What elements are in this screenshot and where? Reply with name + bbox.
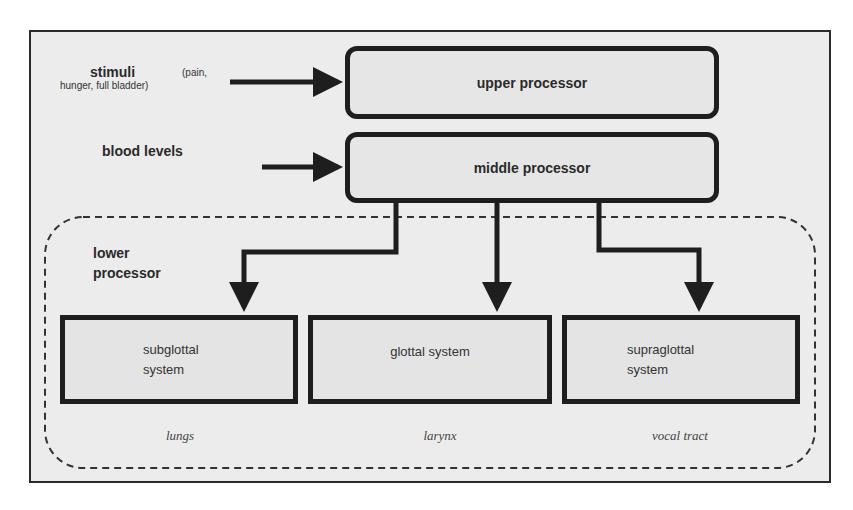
organ-vocal-tract: vocal tract (620, 428, 740, 444)
upper-processor-label: upper processor (477, 75, 587, 91)
stimuli-detail-2: hunger, full bladder) (60, 80, 148, 91)
organ-lungs: lungs (130, 428, 230, 444)
glottal-system-box: glottal system (308, 315, 552, 404)
organ-larynx: larynx (390, 428, 490, 444)
supraglottal-system-box: supraglottalsystem (562, 315, 800, 404)
lower-processor-line2: processor (93, 263, 161, 283)
supraglottal-line2: system (627, 360, 694, 380)
upper-processor-box: upper processor (345, 46, 719, 119)
lower-processor-label: lower processor (93, 243, 161, 283)
blood-levels-label: blood levels (102, 143, 183, 159)
stimuli-label: stimuli (90, 64, 135, 80)
supraglottal-line1: supraglottal (627, 340, 694, 360)
subglottal-line2: system (143, 360, 199, 380)
glottal-line1: glottal system (390, 342, 469, 362)
lower-processor-line1: lower (93, 243, 161, 263)
stimuli-detail-1: (pain, (182, 67, 207, 78)
middle-processor-label: middle processor (474, 160, 591, 176)
subglottal-line1: subglottal (143, 340, 199, 360)
subglottal-system-box: subglottalsystem (60, 315, 298, 404)
middle-processor-box: middle processor (345, 132, 719, 203)
